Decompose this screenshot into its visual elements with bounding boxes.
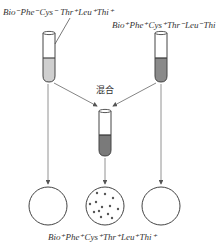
mixed-test-tube xyxy=(99,109,111,156)
mix-label: 混合 xyxy=(96,86,114,95)
plate-right xyxy=(142,187,180,225)
right-test-tube xyxy=(155,31,167,82)
experiment-diagram xyxy=(0,0,217,251)
mix-arrow-right xyxy=(113,83,156,106)
right-strain-label: Bio⁺Phe⁺Cys⁺Thr⁻Leu⁻Thi⁻ xyxy=(112,21,217,30)
mix-arrow-left xyxy=(54,83,97,106)
plate-left xyxy=(29,187,67,225)
left-test-tube xyxy=(43,31,55,82)
plate-middle xyxy=(86,187,124,225)
left-strain-label: Bio⁻Phe⁻Cys⁻ Thr⁺Leu⁺Thi⁺ xyxy=(3,8,114,17)
label-pointer-line xyxy=(55,18,70,44)
result-strain-label: Bio⁺Phe⁺Cys⁺Thr⁺Leu⁺Thi⁺ xyxy=(48,233,157,242)
